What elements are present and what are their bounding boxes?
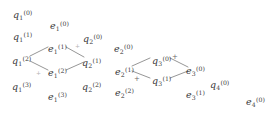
node-subscript: 1 xyxy=(19,14,23,21)
node-superscript: (0) xyxy=(163,55,172,62)
edge-q1_2-e1_1 xyxy=(30,47,48,56)
node-q3_0: q3(0) xyxy=(152,56,171,67)
node-superscript: (1) xyxy=(24,31,33,38)
node-e3_0: e3(0) xyxy=(186,66,205,77)
node-base: e xyxy=(246,96,252,107)
node-q1_3: q1(3) xyxy=(12,82,31,93)
node-superscript: (0) xyxy=(221,79,230,86)
node-e2_0: e2(0) xyxy=(114,44,133,55)
node-superscript: (0) xyxy=(124,43,133,50)
node-q1_0: q1(0) xyxy=(13,10,32,21)
node-base: e xyxy=(115,66,121,77)
node-base: e xyxy=(48,43,54,54)
node-superscript: (0) xyxy=(94,33,103,40)
node-subscript: 1 xyxy=(18,86,22,93)
node-q3_1: q3(1) xyxy=(152,76,171,87)
node-superscript: (1) xyxy=(58,43,67,50)
node-superscript: (1) xyxy=(196,89,205,96)
node-superscript: (1) xyxy=(93,57,102,64)
node-base: e xyxy=(186,89,192,100)
diagram-canvas: q1(0)e1(0)q1(1)q2(0)e1(1)e2(0)q1(2)q2(1)… xyxy=(0,0,275,132)
node-subscript: 3 xyxy=(158,60,162,67)
node-superscript: (2) xyxy=(125,87,134,94)
node-subscript: 3 xyxy=(158,80,162,87)
node-superscript: (2) xyxy=(23,55,32,62)
node-subscript: 1 xyxy=(18,60,22,67)
edge-layer xyxy=(0,0,275,132)
node-superscript: (0) xyxy=(256,96,265,103)
node-superscript: (3) xyxy=(23,81,32,88)
node-superscript: (1) xyxy=(163,75,172,82)
node-superscript: (0) xyxy=(24,9,33,16)
node-q4_0: q4(0) xyxy=(210,80,229,91)
node-base: e xyxy=(186,65,192,76)
marker-lower-right-diamond: + xyxy=(134,76,140,83)
node-e1_3: e1(3) xyxy=(48,92,67,103)
node-q2_1: q2(1) xyxy=(82,58,101,69)
node-subscript: 2 xyxy=(88,86,92,93)
node-subscript: 2 xyxy=(88,62,92,69)
marker-lower-left-diamond: + xyxy=(36,70,41,76)
node-superscript: (2) xyxy=(93,81,102,88)
node-superscript: (0) xyxy=(196,65,205,72)
node-base: e xyxy=(48,91,54,102)
marker-upper-right-diamond: + xyxy=(172,54,178,61)
node-subscript: 4 xyxy=(216,84,220,91)
node-e1_2: e1(2) xyxy=(48,68,67,79)
node-q2_0: q2(0) xyxy=(83,34,102,45)
node-base: e xyxy=(48,67,54,78)
node-q1_1: q1(1) xyxy=(13,32,32,43)
node-e1_1: e1(1) xyxy=(48,44,67,55)
node-e2_1: e2(1) xyxy=(115,67,134,78)
node-superscript: (3) xyxy=(58,91,67,98)
node-subscript: 2 xyxy=(89,38,93,45)
node-subscript: 1 xyxy=(19,36,23,43)
node-base: e xyxy=(114,43,120,54)
edge-e2_1-q3_0 xyxy=(132,58,150,66)
node-e2_2: e2(2) xyxy=(115,88,134,99)
node-superscript: (1) xyxy=(125,66,134,73)
node-e4_0: e4(0) xyxy=(246,97,265,108)
node-superscript: (2) xyxy=(58,67,67,74)
node-q1_2: q1(2) xyxy=(12,56,31,67)
node-e1_0: e1(0) xyxy=(50,21,69,32)
node-base: e xyxy=(50,20,56,31)
marker-upper-left-diamond: + xyxy=(75,43,80,49)
node-superscript: (0) xyxy=(60,20,69,27)
node-q2_2: q2(2) xyxy=(82,82,101,93)
node-e3_1: e3(1) xyxy=(186,90,205,101)
node-base: e xyxy=(115,87,121,98)
